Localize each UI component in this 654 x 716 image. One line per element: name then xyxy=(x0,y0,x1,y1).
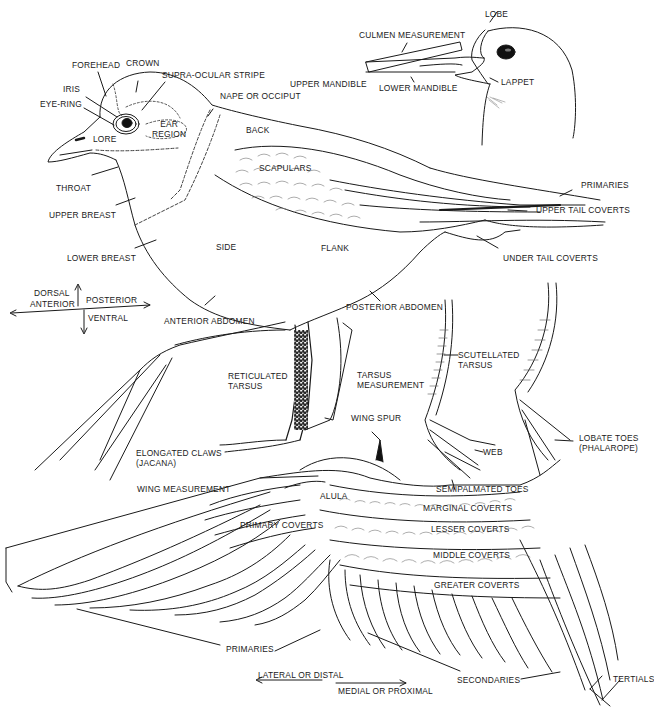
label-lower-breast: LOWER BREAST xyxy=(67,253,136,263)
label-primary-coverts: PRIMARY COVERTS xyxy=(240,520,324,530)
label-greater-coverts: GREATER COVERTS xyxy=(434,580,520,590)
label-posterior: POSTERIOR xyxy=(86,295,137,305)
label-upper-tail-coverts: UPPER TAIL COVERTS xyxy=(536,205,630,215)
label-forehead: FOREHEAD xyxy=(72,60,120,70)
label-flank: FLANK xyxy=(321,243,349,253)
label-iris: IRIS xyxy=(63,84,80,94)
label-primaries-folded: PRIMARIES xyxy=(581,180,629,190)
label-lower-mandible: LOWER MANDIBLE xyxy=(379,83,458,93)
label-medial-or-proximal: MEDIAL OR PROXIMAL xyxy=(338,686,433,696)
label-supra-ocular-stripe: SUPRA-OCULAR STRIPE xyxy=(162,70,265,80)
main-bird-head xyxy=(48,72,430,330)
label-reticulated-tarsus: RETICULATED TARSUS xyxy=(228,371,288,391)
label-nape: NAPE OR OCCIPUT xyxy=(220,91,301,101)
label-ventral: VENTRAL xyxy=(88,313,128,323)
bird-line-art xyxy=(0,0,654,716)
label-throat: THROAT xyxy=(56,183,91,193)
label-wing-spur: WING SPUR xyxy=(351,413,401,423)
bird-topography-diagram: FOREHEAD CROWN IRIS SUPRA-OCULAR STRIPE … xyxy=(0,0,654,716)
label-marginal-coverts: MARGINAL COVERTS xyxy=(423,503,512,513)
label-alula: ALULA xyxy=(320,491,348,501)
label-elongated-claws: ELONGATED CLAWS (JACANA) xyxy=(136,448,222,468)
label-semipalmated-toes: SEMIPALMATED TOES xyxy=(436,484,529,494)
label-lesser-coverts: LESSER COVERTS xyxy=(431,524,510,534)
label-upper-mandible: UPPER MANDIBLE xyxy=(290,79,367,89)
label-posterior-abdomen: POSTERIOR ABDOMEN xyxy=(346,302,443,312)
label-back: BACK xyxy=(246,125,270,135)
label-lore: LORE xyxy=(93,134,117,144)
label-wing-measurement: WING MEASUREMENT xyxy=(137,484,230,494)
label-ear-region: EAR REGION xyxy=(152,119,186,139)
label-crown: CROWN xyxy=(126,58,160,68)
label-tarsus-measurement: TARSUS MEASUREMENT xyxy=(357,370,424,390)
label-lateral-or-distal: LATERAL OR DISTAL xyxy=(258,670,344,680)
label-lappet: LAPPET xyxy=(501,77,534,87)
orientation-arrows xyxy=(10,284,150,334)
label-upper-breast: UPPER BREAST xyxy=(49,210,116,220)
label-middle-coverts: MIDDLE COVERTS xyxy=(433,550,510,560)
label-secondaries: SECONDARIES xyxy=(457,675,520,685)
label-side: SIDE xyxy=(216,242,236,252)
label-tertials: TERTIALS xyxy=(613,674,654,684)
label-dorsal: DORSAL xyxy=(34,288,70,298)
label-anterior-abdomen: ANTERIOR ABDOMEN xyxy=(164,316,255,326)
label-scapulars: SCAPULARS xyxy=(259,163,312,173)
label-lobe: LOBE xyxy=(485,9,508,19)
label-under-tail-coverts: UNDER TAIL COVERTS xyxy=(503,253,598,263)
label-culmen-measurement: CULMEN MEASUREMENT xyxy=(359,30,465,40)
label-eye-ring: EYE-RING xyxy=(40,99,82,109)
label-scutellated-tarsus: SCUTELLATED TARSUS xyxy=(458,350,520,370)
label-primaries-wing: PRIMARIES xyxy=(226,644,274,654)
label-lobate-toes: LOBATE TOES (PHALAROPE) xyxy=(579,433,638,453)
label-web: WEB xyxy=(483,447,503,457)
label-anterior: ANTERIOR xyxy=(30,299,75,309)
